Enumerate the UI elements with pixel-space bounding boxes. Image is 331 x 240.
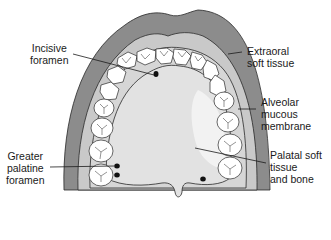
label-palatal-soft-tissue-and-bone: Palatal soft tissue and bone xyxy=(270,149,322,185)
label-greater-palatine-foramen: Greater palatine foramen xyxy=(6,150,45,186)
tooth xyxy=(218,134,242,156)
greater-palatine-foramen-left-2 xyxy=(114,173,120,178)
greater-palatine-foramen-left-1 xyxy=(114,164,120,169)
incisive-foramen-marker xyxy=(154,71,159,77)
tooth xyxy=(89,140,113,162)
label-alveolar-mucous-membrane: Alveolar mucous membrane xyxy=(261,96,311,132)
greater-palatine-foramen-right xyxy=(200,177,206,182)
label-incisive-foramen: Incisive foramen xyxy=(30,42,69,66)
tooth xyxy=(218,157,242,179)
tooth xyxy=(89,164,113,186)
label-extraoral-soft-tissue: Extraoral soft tissue xyxy=(247,45,294,69)
